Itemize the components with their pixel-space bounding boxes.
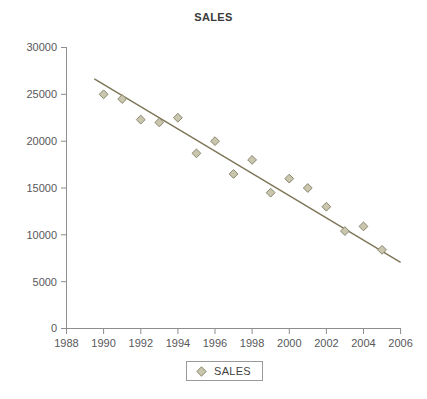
x-tick-label-2002: 2002 [314,337,338,349]
scatter-plot-svg: 30000 25000 20000 15000 10000 5000 0 198… [0,0,427,399]
y-tick-label-5000: 5000 [33,276,57,288]
data-point [303,184,312,193]
data-point-group [99,90,386,254]
x-axis-ticks [67,329,401,334]
x-tick-label-1994: 1994 [166,337,190,349]
data-point [285,174,294,183]
y-tick-label-25000: 25000 [26,88,57,100]
y-axis-ticks [61,48,66,329]
x-tick-label-1990: 1990 [91,337,115,349]
x-tick-label-1996: 1996 [203,337,227,349]
y-tick-label-30000: 30000 [26,41,57,53]
trend-line [94,79,400,263]
x-tick-label-1988: 1988 [54,337,78,349]
data-point [136,115,145,124]
data-point [173,113,182,122]
x-tick-label-1998: 1998 [240,337,264,349]
data-point [118,95,127,104]
data-point [99,90,108,99]
legend-label: SALES [214,365,251,377]
x-tick-label-2006: 2006 [388,337,412,349]
y-tick-label-10000: 10000 [26,229,57,241]
x-tick-label-1992: 1992 [129,337,153,349]
chart-container: SALES 30000 25000 20000 15000 10000 5000… [0,0,427,399]
data-point [192,149,201,158]
data-point [266,188,275,197]
data-point [322,202,331,211]
data-point [229,170,238,179]
data-point [359,222,368,231]
legend-diamond-icon [196,366,207,377]
y-tick-label-0: 0 [51,322,57,334]
data-point [248,156,257,165]
y-tick-label-20000: 20000 [26,135,57,147]
chart-legend[interactable]: SALES [186,361,263,381]
data-point [211,137,220,146]
x-tick-label-2004: 2004 [351,337,375,349]
x-tick-label-2000: 2000 [277,337,301,349]
y-tick-label-15000: 15000 [26,182,57,194]
